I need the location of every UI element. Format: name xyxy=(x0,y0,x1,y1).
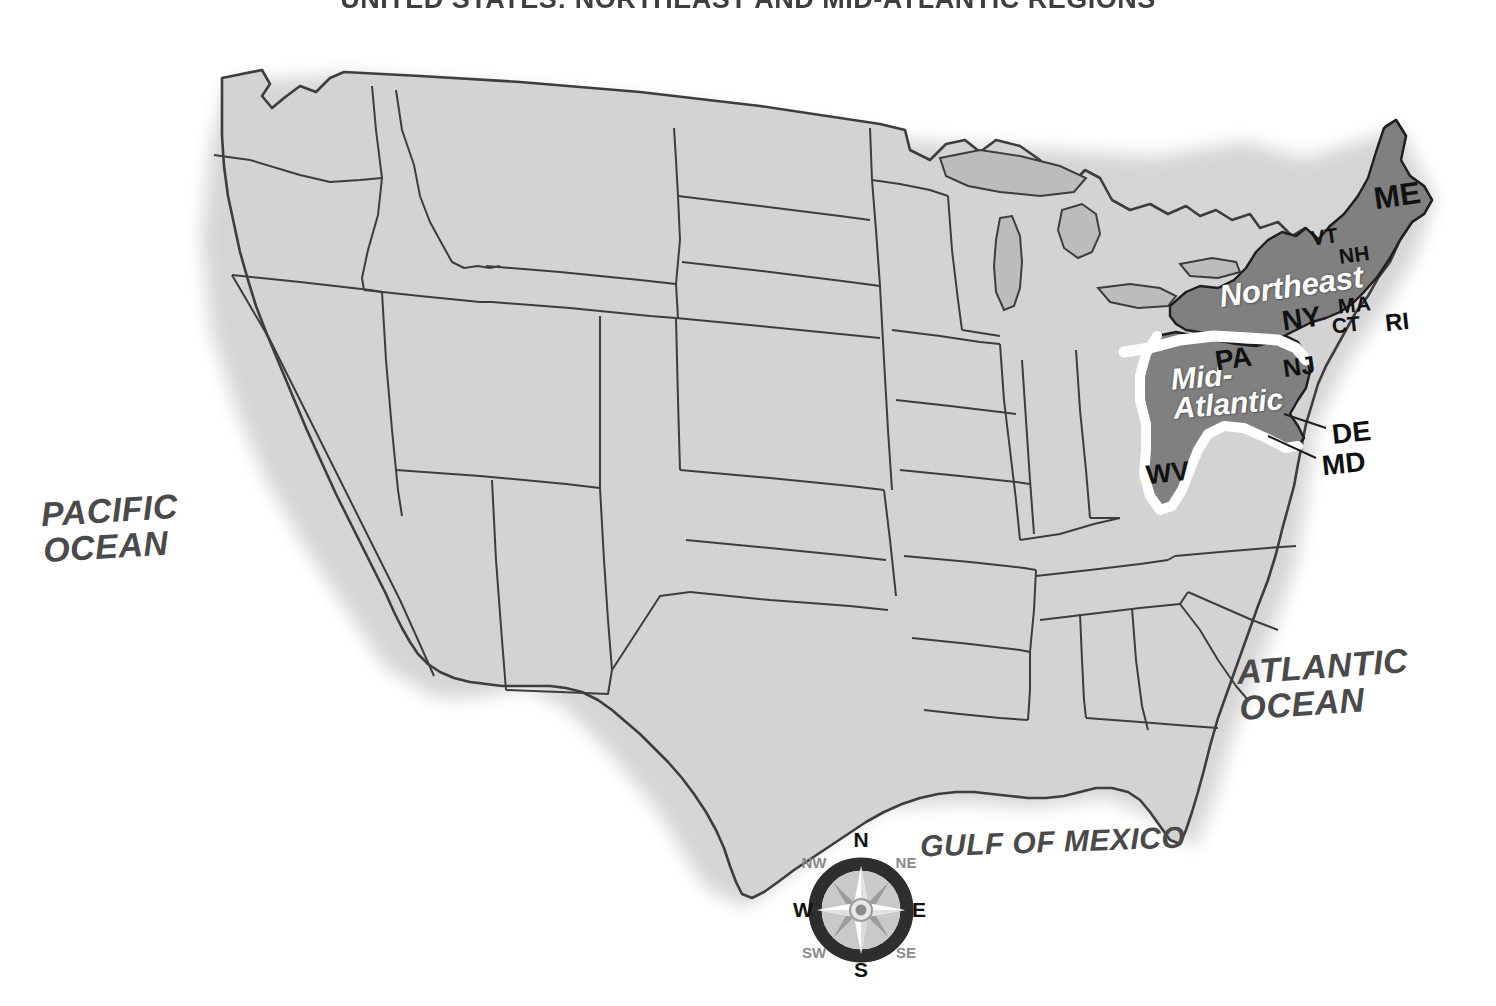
pacific-ocean-label: PACIFIC OCEAN xyxy=(40,488,181,568)
compass-northwest-label: NW xyxy=(800,854,828,871)
atlantic-ocean-label: ATLANTIC OCEAN xyxy=(1236,642,1412,726)
state-label-de: DE xyxy=(1330,415,1372,451)
map-page: UNITED STATES: NORTHEAST AND MID-ATLANTI… xyxy=(0,0,1496,1006)
state-label-me: ME xyxy=(1372,175,1423,217)
compass-north-label: N xyxy=(850,828,872,852)
state-label-pa: PA xyxy=(1213,341,1254,378)
state-label-ri: RI xyxy=(1384,307,1411,337)
compass-east-label: E xyxy=(908,898,930,922)
state-label-ct: CT xyxy=(1331,312,1361,339)
state-label-ny: NY xyxy=(1280,300,1323,337)
compass-southeast-label: SE xyxy=(892,944,920,961)
state-label-md: MD xyxy=(1320,446,1367,482)
compass-rose: N S E W NE SE SW NW xyxy=(788,834,934,982)
state-label-nh: NH xyxy=(1337,241,1370,269)
us-map-svg xyxy=(0,0,1496,1006)
state-label-vt: VT xyxy=(1309,223,1339,251)
compass-northeast-label: NE xyxy=(892,854,920,871)
state-label-nj: NJ xyxy=(1281,350,1317,383)
compass-west-label: W xyxy=(792,898,814,922)
compass-south-label: S xyxy=(850,958,872,982)
lake-michigan xyxy=(994,216,1022,310)
state-label-wv: WV xyxy=(1144,456,1191,491)
compass-southwest-label: SW xyxy=(800,944,828,961)
